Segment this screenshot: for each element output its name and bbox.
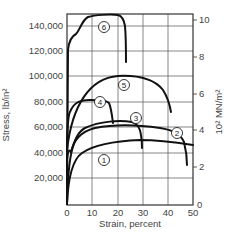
curve-label-5: 5 [122,81,127,90]
curve-label-6: 6 [102,23,107,32]
curve-2 [67,125,187,204]
y-tick-100000: 100,000 [29,70,63,81]
x-axis-title: Strain, percent [99,218,161,229]
y-right-tick-6: 6 [199,88,204,99]
y-tick-60000: 60,000 [34,121,63,132]
x-tick-50: 50 [188,207,199,218]
curve-label-1: 1 [102,156,107,165]
y-right-tick-10: 10 [199,14,210,25]
x-tick-0: 0 [64,207,69,218]
curve-label-2: 2 [175,129,180,138]
y-tick-120000: 120,000 [29,45,63,56]
y-right-tick-2: 2 [199,161,204,172]
y-tick-40000: 40,000 [34,147,63,158]
x-tick-10: 10 [87,207,98,218]
x-axis-labels: 0 10 20 30 40 50 [64,207,198,218]
curve-label-4: 4 [98,98,103,107]
y-axis-title: Stress, lb/in² [0,89,11,142]
curve-label-3: 3 [134,114,139,123]
x-tick-20: 20 [113,207,124,218]
y-right-tick-8: 8 [199,51,204,62]
y-tick-20000: 20,000 [34,172,63,183]
left-axis-labels: 140,000 120,000 100,000 80,000 60,000 40… [29,20,63,183]
stress-strain-chart: 1 2 3 4 5 6 140,000 120,000 100,000 80,0… [0,0,229,237]
curve-6 [67,15,126,204]
x-tick-30: 30 [138,207,149,218]
curves [67,15,193,204]
y-tick-140000: 140,000 [29,20,63,31]
grid [67,14,193,205]
curve-1 [67,140,193,204]
y-axis-right-title: 10² MN/m² [213,90,224,135]
x-tick-40: 40 [163,207,174,218]
y-tick-80000: 80,000 [34,96,63,107]
y-right-tick-4: 4 [199,124,204,135]
right-axis-labels: 10 8 6 4 2 0 [197,14,210,210]
plot-frame [67,14,193,205]
